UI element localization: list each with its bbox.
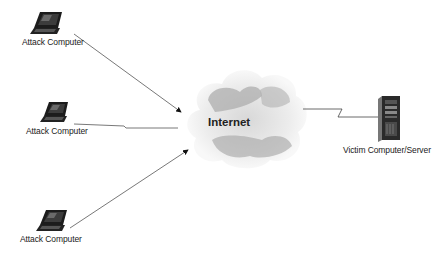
internet-label: Internet xyxy=(208,116,250,128)
attacker-3-label: Attack Computer xyxy=(20,234,82,244)
laptop-icon xyxy=(40,102,68,122)
edge-attacker-3-internet xyxy=(70,150,188,228)
attacker-1-label: Attack Computer xyxy=(22,37,84,47)
laptop-icon xyxy=(36,210,67,231)
edge-internet-victim xyxy=(303,109,380,117)
attacker-2-label: Attack Computer xyxy=(26,126,88,136)
server-tower-icon xyxy=(378,96,400,142)
victim-label: Victim Computer/Server xyxy=(343,145,431,155)
laptop-icon xyxy=(30,12,62,34)
edge-attacker-2-internet xyxy=(74,124,178,128)
edge-attacker-1-internet xyxy=(74,34,181,112)
